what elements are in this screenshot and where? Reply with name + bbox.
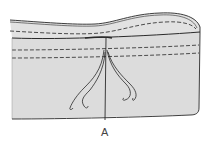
figure-caption: A	[0, 126, 210, 138]
